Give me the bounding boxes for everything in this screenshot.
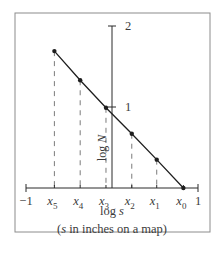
x-axis-label: log s (100, 204, 124, 218)
data-point-x4 (78, 78, 82, 82)
y-tick-label: 2 (125, 19, 131, 33)
data-point-x1 (155, 157, 159, 161)
x-axis-note: (s in inches on a map) (57, 222, 167, 236)
x-point-label-x1: x1 (149, 194, 160, 211)
y-tick-label: 1 (125, 100, 131, 114)
x-point-label-x4: x4 (72, 194, 84, 211)
x-point-label-x0: x0 (175, 194, 187, 211)
y-axis-label: log N (95, 134, 109, 161)
data-point-x5 (52, 49, 56, 53)
data-point-x0 (181, 186, 185, 190)
data-point-x3 (104, 106, 108, 110)
chart: −1112x5x4x3x2x1x0 log N log s (s in inch… (0, 0, 221, 262)
series-line (54, 51, 183, 188)
x-point-label-x5: x5 (46, 194, 58, 211)
data-point-x2 (130, 132, 134, 136)
x-tick-label: −1 (19, 194, 32, 208)
x-point-label-x2: x2 (124, 194, 135, 211)
x-tick-label: 1 (195, 194, 201, 208)
